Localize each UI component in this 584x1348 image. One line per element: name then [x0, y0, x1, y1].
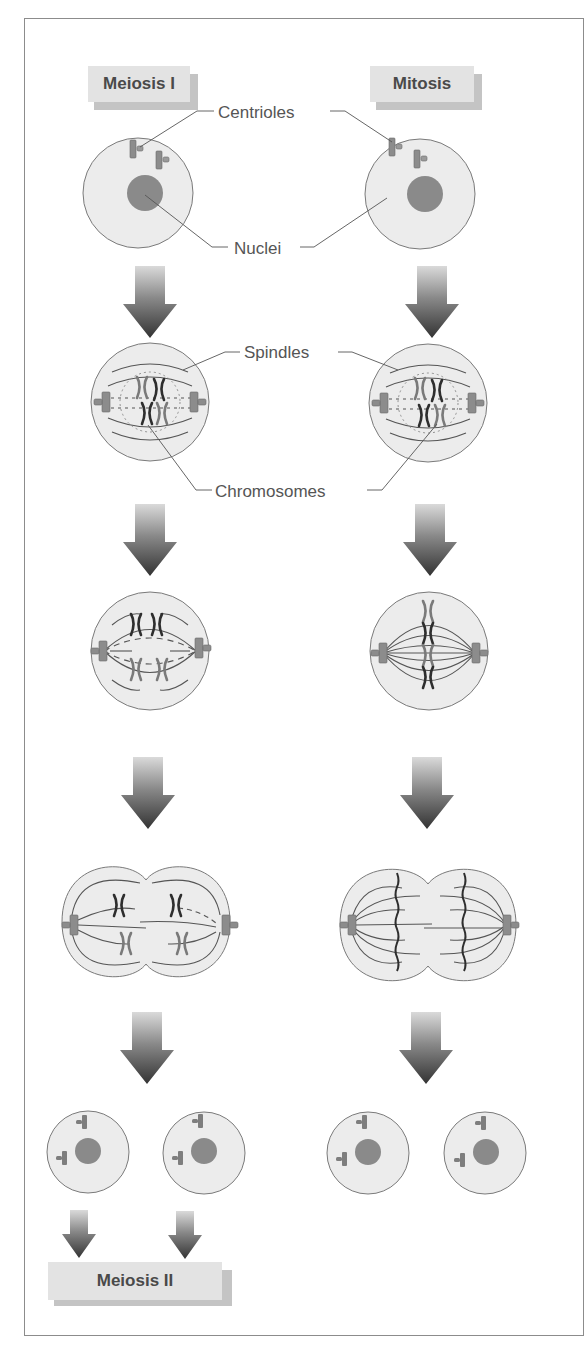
centriole-icon: [222, 915, 238, 935]
arrow-down-icon: [121, 757, 175, 829]
label-centrioles: Centrioles: [218, 103, 295, 122]
label-spindles: Spindles: [244, 343, 309, 362]
callout-spindles: Spindles: [183, 343, 398, 370]
arrow-down-icon: [62, 1210, 96, 1258]
arrow-down-icon: [168, 1211, 202, 1259]
mitosis-daughter-cell-2: [444, 1112, 526, 1194]
arrow-down-icon: [120, 1012, 174, 1084]
meiosis-metaphase-cell: [91, 592, 211, 710]
arrow-down-icon: [123, 266, 177, 338]
meiosis-interphase-cell: [83, 138, 193, 248]
mitosis-interphase-cell: [365, 138, 475, 249]
meiosis-telophase-cell: [62, 867, 238, 977]
arrow-down-icon: [403, 504, 457, 576]
arrow-down-icon: [123, 504, 177, 576]
meiosis-daughter-cell-2: [163, 1112, 245, 1194]
mitosis-prophase-cell: [369, 344, 487, 462]
mitosis-telophase-cell: [340, 869, 519, 980]
arrow-down-icon: [400, 757, 454, 829]
mitosis-metaphase-cell: [370, 592, 488, 710]
centriole-icon: [503, 915, 519, 935]
meiosis-daughter-cell-1: [47, 1111, 129, 1193]
label-nuclei: Nuclei: [234, 239, 281, 258]
meiosis-prophase-cell: [91, 343, 209, 461]
mitosis-daughter-cell-1: [327, 1112, 409, 1194]
callout-centrioles: Centrioles: [140, 103, 392, 147]
label-chromosomes: Chromosomes: [215, 482, 326, 501]
arrow-down-icon: [405, 266, 459, 338]
arrow-down-icon: [399, 1012, 453, 1084]
